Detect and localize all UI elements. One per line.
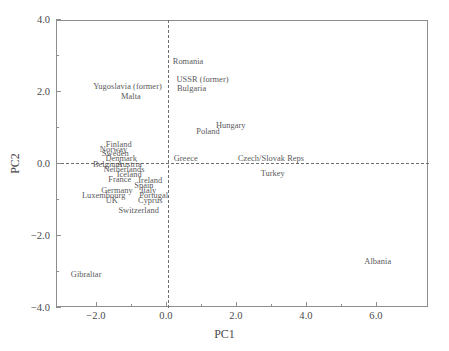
x-tick-label: 2.0 <box>229 310 242 321</box>
y-tick-mark <box>56 271 59 272</box>
reference-line-vertical <box>168 20 169 308</box>
y-tick-label: −2.0 <box>24 229 50 240</box>
y-tick-mark <box>56 91 61 92</box>
data-point-label: Turkey <box>261 169 285 178</box>
x-axis-title: PC1 <box>0 327 449 342</box>
x-tick-mark <box>166 302 167 307</box>
x-tick-label: 6.0 <box>369 310 382 321</box>
y-tick-mark <box>56 199 59 200</box>
y-tick-label: 4.0 <box>24 14 50 25</box>
data-point-label: Czech/Slovak Reps <box>238 153 304 162</box>
data-point-label: Luxembourg <box>82 190 126 199</box>
x-tick-mark <box>271 304 272 307</box>
data-point-label: Bulgaria <box>177 83 206 92</box>
y-tick-mark <box>56 55 59 56</box>
x-tick-mark <box>201 304 202 307</box>
y-tick-mark <box>56 307 61 308</box>
data-point-label: France <box>108 174 131 183</box>
data-point-label: Poland <box>196 126 220 135</box>
x-tick-mark <box>236 302 237 307</box>
data-point-label: Yugoslavia (former) <box>93 82 162 91</box>
x-tick-mark <box>131 304 132 307</box>
data-point-label: Hungary <box>216 121 246 130</box>
x-tick-label: −2.0 <box>86 310 105 321</box>
data-point-label: Gibraltar <box>71 269 102 278</box>
data-point-label: Albania <box>364 256 391 265</box>
data-point-label: Cyprus <box>138 196 163 205</box>
y-tick-label: 0.0 <box>24 158 50 169</box>
x-tick-mark <box>96 302 97 307</box>
x-tick-label: 4.0 <box>299 310 312 321</box>
data-point-label: Malta <box>121 91 141 100</box>
y-tick-label: 2.0 <box>24 86 50 97</box>
pca-scatter-figure: −2.00.02.04.06.04.02.00.0−2.0−4.0 Romani… <box>0 0 449 351</box>
data-point-label: UK <box>106 195 118 204</box>
x-tick-mark <box>376 302 377 307</box>
x-tick-label: 0.0 <box>159 310 172 321</box>
data-point-label: Romania <box>173 56 204 65</box>
y-tick-mark <box>56 19 61 20</box>
data-point-label: Greece <box>174 153 198 162</box>
y-tick-mark <box>56 127 59 128</box>
x-tick-mark <box>306 302 307 307</box>
y-axis-title: PC2 <box>8 139 23 189</box>
y-tick-label: −4.0 <box>24 301 50 312</box>
data-point-label: Switzerland <box>118 205 159 214</box>
x-tick-mark <box>341 304 342 307</box>
y-tick-mark <box>56 235 61 236</box>
y-tick-mark <box>56 163 61 164</box>
